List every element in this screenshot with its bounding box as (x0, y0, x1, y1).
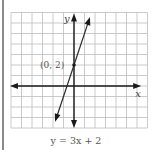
equation-caption: y = 3x + 2 (50, 135, 102, 146)
grid (11, 13, 148, 129)
axes (10, 14, 141, 128)
series-arrow-up (85, 17, 91, 26)
y-axis-arrow-down (71, 120, 77, 128)
coordinate-plane: y x (0, 2) y = 3x + 2 (0, 0, 153, 150)
y-axis-label: y (63, 13, 70, 24)
labels: y x (0, 2) y = 3x + 2 (40, 13, 141, 146)
y-axis-arrow-up (71, 14, 77, 22)
x-axis-label: x (135, 88, 141, 99)
graph-figure: y x (0, 2) y = 3x + 2 (0, 0, 153, 150)
point-marker (72, 63, 76, 67)
point-label: (0, 2) (40, 60, 64, 70)
